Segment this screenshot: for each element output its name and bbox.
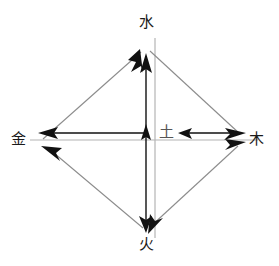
node-label-wood: 木 <box>249 132 264 147</box>
node-label-water: 水 <box>139 15 154 30</box>
node-label-earth: 土 <box>159 125 174 140</box>
node-label-fire: 火 <box>139 237 154 252</box>
node-label-metal: 金 <box>11 132 26 147</box>
edge-metal-to-water <box>43 52 141 139</box>
wuxing-diagram-canvas <box>0 0 279 266</box>
edge-wood-fire-double <box>150 146 238 227</box>
edge-water-to-wood <box>150 51 240 134</box>
arrowheads <box>38 49 246 234</box>
edge-fire-to-metal <box>48 148 143 228</box>
wuxing-diagram: 水 金 土 木 火 <box>0 0 279 266</box>
arrowhead-metal-diagonal <box>41 146 62 161</box>
